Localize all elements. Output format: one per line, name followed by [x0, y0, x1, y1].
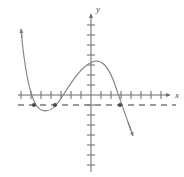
intersection-point-2 [53, 103, 57, 107]
intersection-point-1 [32, 103, 36, 107]
curve-right-arrow-icon [128, 122, 133, 136]
graph-figure: ) [0, 0, 184, 177]
x-axis-label: x [174, 90, 179, 100]
y-axis-label: y [95, 4, 100, 14]
cubic-curve [21, 30, 131, 130]
intersection-point-3 [118, 103, 122, 107]
x-axis-group: x [18, 90, 179, 100]
y-axis-group: y [87, 4, 100, 172]
coordinate-plane: x y [0, 0, 184, 177]
